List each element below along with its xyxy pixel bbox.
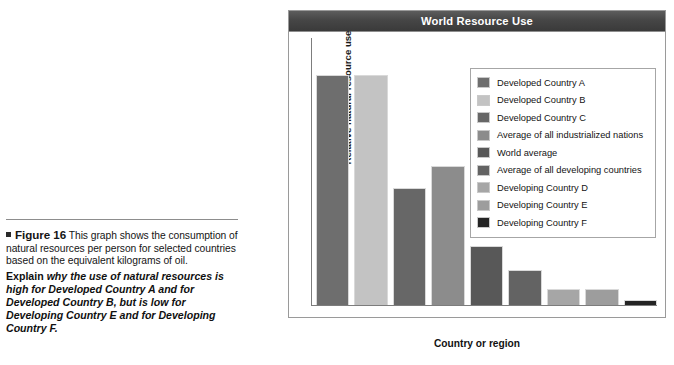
legend-swatch-icon — [477, 130, 490, 141]
legend-swatch-icon — [477, 165, 490, 176]
caption-bullet-icon — [6, 232, 11, 237]
legend-label: Average of all industrialized nations — [497, 130, 643, 140]
caption-divider — [6, 219, 238, 220]
legend-label: Developing Country D — [497, 183, 588, 193]
legend-label: Developing Country F — [497, 218, 587, 228]
legend-item: Average of all industrialized nations — [477, 127, 649, 145]
legend-label: Developed Country B — [497, 95, 585, 105]
legend-item: Developed Country B — [477, 92, 649, 110]
legend-label: Developing Country E — [497, 200, 587, 210]
legend-label: World average — [497, 148, 557, 158]
bar — [585, 289, 618, 305]
legend-item: Developing Country F — [477, 214, 649, 232]
legend-item: Developing Country E — [477, 197, 649, 215]
caption-body-text: Figure 16 This graph shows the consumpti… — [6, 229, 244, 268]
legend-swatch-icon — [477, 77, 490, 88]
chart-legend: Developed Country ADeveloped Country BDe… — [470, 68, 656, 238]
legend-item: Developed Country C — [477, 109, 649, 127]
bar — [354, 75, 387, 305]
bar — [393, 188, 426, 305]
legend-label: Average of all developing countries — [497, 165, 642, 175]
legend-item: Average of all developing countries — [477, 162, 649, 180]
caption-explain-keyword: Explain — [6, 270, 44, 282]
bar — [316, 75, 349, 305]
plot-outer: Relative natural resource use Developed … — [289, 32, 665, 318]
legend-swatch-icon — [477, 217, 490, 228]
legend-label: Developed Country C — [497, 113, 586, 123]
caption-explain-block: Explain why the use of natural resources… — [6, 270, 244, 335]
legend-item: World average — [477, 144, 649, 162]
legend-swatch-icon — [477, 200, 490, 211]
legend-item: Developed Country A — [477, 74, 649, 92]
legend-swatch-icon — [477, 95, 490, 106]
legend-item: Developing Country D — [477, 179, 649, 197]
chart-panel: World Resource Use Relative natural reso… — [288, 10, 666, 318]
legend-swatch-icon — [477, 112, 490, 123]
bar — [508, 270, 541, 305]
bar — [431, 166, 464, 305]
legend-swatch-icon — [477, 182, 490, 193]
bar — [470, 246, 503, 305]
figure-caption: Figure 16 This graph shows the consumpti… — [6, 219, 244, 335]
legend-swatch-icon — [477, 147, 490, 158]
chart-title: World Resource Use — [421, 15, 533, 27]
legend-label: Developed Country A — [497, 78, 585, 88]
bar — [547, 289, 580, 305]
x-axis-label: Country or region — [288, 338, 666, 349]
bar — [624, 300, 657, 305]
figure-number-label: Figure 16 — [15, 228, 66, 241]
figure-container: Figure 16 This graph shows the consumpti… — [0, 0, 674, 365]
